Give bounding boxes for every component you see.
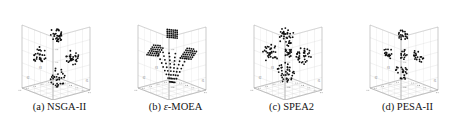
plot-pesa-ii-svg: f1f2f3 bbox=[350, 0, 465, 100]
plot-nsga-ii: f1f2f3 bbox=[2, 0, 117, 100]
svg-text:f2: f2 bbox=[27, 76, 30, 80]
caption-prefix: (b) bbox=[149, 101, 161, 112]
svg-text:f2: f2 bbox=[259, 76, 262, 80]
svg-text:f1: f1 bbox=[434, 79, 437, 83]
svg-text:f3: f3 bbox=[155, 66, 158, 70]
caption-label: -MOEA bbox=[168, 101, 202, 112]
caption-nsga-ii: (a) NSGA-II bbox=[33, 101, 86, 113]
svg-text:f3: f3 bbox=[271, 66, 274, 70]
caption-eps-moea: (b) ε-MOEA bbox=[149, 101, 202, 113]
plot-eps-moea-svg: f1f2f3 bbox=[118, 0, 233, 100]
svg-text:f2: f2 bbox=[143, 76, 146, 80]
svg-text:f2: f2 bbox=[375, 76, 378, 80]
caption-pesa-ii: (d) PESA-II bbox=[382, 101, 433, 113]
plot-nsga-ii-svg: f1f2f3 bbox=[2, 0, 117, 100]
svg-text:f1: f1 bbox=[86, 79, 89, 83]
svg-text:f3: f3 bbox=[39, 66, 42, 70]
caption-spea2: (c) SPEA2 bbox=[269, 101, 314, 113]
figure-scatter3d-comparison: f1f2f3 (a) NSGA-II f1f2f3 (b) ε-MOEA f1f… bbox=[0, 0, 467, 127]
panel-pesa-ii: f1f2f3 (d) PESA-II bbox=[350, 0, 465, 127]
plot-eps-moea: f1f2f3 bbox=[118, 0, 233, 100]
plot-pesa-ii: f1f2f3 bbox=[350, 0, 465, 100]
plot-spea2: f1f2f3 bbox=[234, 0, 349, 100]
panel-eps-moea: f1f2f3 (b) ε-MOEA bbox=[118, 0, 233, 127]
panel-nsga-ii: f1f2f3 (a) NSGA-II bbox=[2, 0, 117, 127]
svg-text:f3: f3 bbox=[387, 66, 390, 70]
plot-spea2-svg: f1f2f3 bbox=[234, 0, 349, 100]
svg-text:f1: f1 bbox=[202, 79, 205, 83]
panel-spea2: f1f2f3 (c) SPEA2 bbox=[234, 0, 349, 127]
svg-text:f1: f1 bbox=[318, 79, 321, 83]
